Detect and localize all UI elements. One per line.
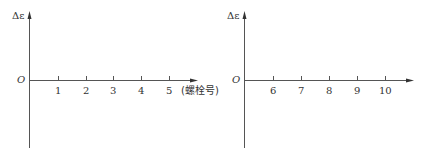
left-tick-label: 4: [138, 86, 144, 96]
right-tick-label: 7: [298, 86, 304, 96]
right-tick-label: 6: [270, 86, 276, 96]
right-tick-label: 8: [326, 86, 332, 96]
right-tick-label: 10: [379, 86, 392, 96]
left-tick-label: 2: [83, 86, 89, 96]
left-x-axis-label: (螺栓号): [181, 86, 219, 96]
left-tick-label: 3: [110, 86, 116, 96]
left-tick-label: 5: [166, 86, 172, 96]
left-y-axis-label: Δε: [12, 11, 24, 21]
right-y-axis-label: Δε: [227, 11, 239, 21]
left-origin-label: O: [17, 75, 25, 85]
right-origin-label: O: [232, 75, 240, 85]
right-tick-label: 9: [354, 86, 360, 96]
left-tick-label: 1: [55, 86, 61, 96]
axes-drawing: [0, 0, 428, 159]
